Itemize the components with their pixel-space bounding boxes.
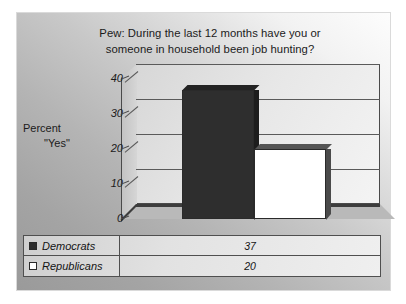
y-tick-label-10: 10 [83,177,123,189]
chart-title: Pew: During the last 12 months have you … [55,26,365,57]
screenshot-page: Pew: During the last 12 months have you … [0,0,406,304]
bar-side-face-republicans [326,149,331,220]
table-row: Democrats 37 [24,236,380,256]
legend-label-democrats: Democrats [42,240,95,252]
bar-front-face-republicans [254,149,326,219]
swatch-democrats-icon [29,242,37,250]
legend-data-table: Democrats 37 Republicans 20 [23,235,381,277]
legend-value-democrats: 37 [120,236,380,255]
y-tick-label-30: 30 [83,107,123,119]
y-tick-label-40: 40 [83,72,123,84]
gridline-40 [136,64,380,65]
legend-value-republicans: 20 [120,256,380,276]
chart-title-line-2: someone in household been job hunting? [55,42,365,58]
y-tick-label-20: 20 [83,142,123,154]
swatch-republicans-icon [29,262,37,270]
bar-front-face-democrats [182,90,254,220]
legend-label-republicans: Republicans [42,260,103,272]
table-row: Republicans 20 [24,256,380,276]
legend-key-republicans: Republicans [24,256,120,276]
bar-chart-plot: 010203040 [80,62,390,230]
y-tick-label-0: 0 [83,212,123,224]
chart-title-line-1: Pew: During the last 12 months have you … [55,26,365,42]
legend-key-democrats: Democrats [24,236,120,255]
presentation-slide: Pew: During the last 12 months have you … [17,13,390,290]
